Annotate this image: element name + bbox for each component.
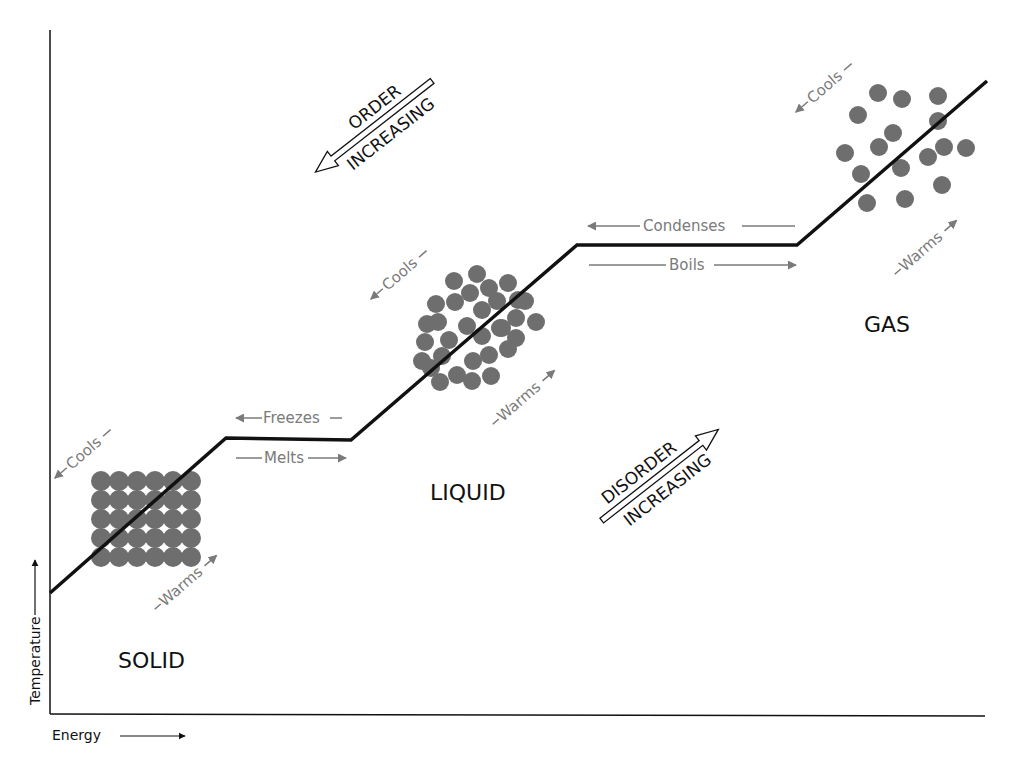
svg-text:Warms: Warms (896, 228, 947, 275)
disorder-increasing-arrow: DISORDER INCREASING (586, 410, 734, 541)
liquid-cools-label: Cools (365, 244, 433, 306)
gas-label: GAS (864, 312, 910, 337)
heating-curve-diagram: Temperature Energy (0, 0, 1009, 765)
x-axis-label: Energy (52, 727, 185, 743)
svg-text:Warms: Warms (156, 563, 207, 610)
svg-text:Condenses: Condenses (643, 217, 725, 235)
svg-text:Cools: Cools (62, 433, 105, 473)
freezes-label: Freezes (236, 409, 342, 427)
melts-label: Melts (236, 449, 346, 467)
svg-text:Temperature: Temperature (27, 616, 43, 706)
svg-text:Cools: Cools (803, 67, 846, 107)
order-increasing-arrow: ORDER INCREASING (300, 61, 448, 192)
svg-text:Cools: Cools (378, 254, 421, 294)
liquid-label: LIQUID (430, 480, 506, 505)
axes (50, 30, 985, 716)
svg-text:Warms: Warms (494, 378, 545, 425)
gas-warms-label: Warms (889, 214, 963, 281)
y-axis-label: Temperature (27, 560, 43, 706)
svg-text:Energy: Energy (52, 727, 101, 743)
svg-text:Boils: Boils (669, 256, 705, 274)
condenses-label: Condenses (588, 217, 795, 235)
gas-cools-label: Cools (790, 57, 858, 119)
solid-particles (91, 471, 201, 567)
x-axis (50, 714, 985, 716)
svg-text:Freezes: Freezes (263, 409, 320, 427)
svg-text:Melts: Melts (264, 449, 304, 467)
solid-label: SOLID (118, 648, 185, 673)
boils-label: Boils (589, 256, 796, 274)
